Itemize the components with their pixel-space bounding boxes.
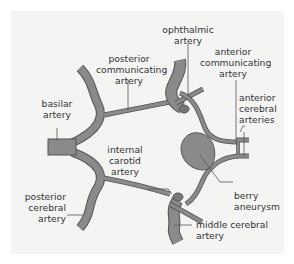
label-line: artery [16,213,66,224]
label-line: artery [200,68,266,79]
label-basilar-artery: basilar artery [36,98,78,120]
label-line: artery [36,109,78,120]
label-line: artery [104,166,146,177]
label-line: artery [160,35,216,46]
label-berry-aneurysm: berry aneurysm [234,190,290,212]
label-ophthalmic-artery: ophthalmic artery [160,24,216,46]
label-line: arteries [239,114,289,125]
label-line: artery [196,230,286,241]
label-line: middle cerebral [196,219,286,230]
label-anterior-communicating-artery: anterior communicating artery [200,46,266,79]
label-posterior-communicating-artery: posterior communicating artery [96,53,162,86]
label-internal-carotid-artery: internal carotid artery [104,144,146,177]
label-line: aneurysm [234,201,290,212]
label-posterior-cerebral-artery: posterior cerebral artery [16,191,66,224]
label-line: anterior [200,46,266,57]
label-line: artery [96,75,162,86]
label-line: posterior [16,191,66,202]
label-anterior-cerebral-arteries: anterior cerebral arteries [239,92,289,125]
label-line: ophthalmic [160,24,216,35]
label-middle-cerebral-artery: middle cerebral artery [196,219,286,241]
label-line: berry [234,190,290,201]
label-line: cerebral [239,103,289,114]
label-line: basilar [36,98,78,109]
label-line: communicating [96,64,162,75]
label-line: anterior [239,92,289,103]
label-line: internal [104,144,146,155]
label-line: carotid [104,155,146,166]
label-line: communicating [200,57,266,68]
label-line: posterior [96,53,162,64]
label-line: cerebral [16,202,66,213]
